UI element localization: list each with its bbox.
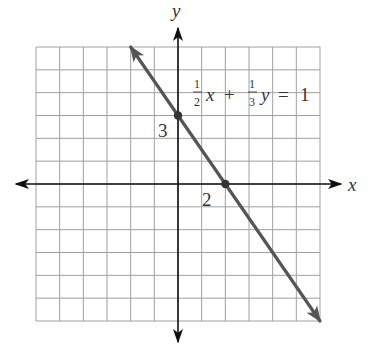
- y-intercept-point: [174, 111, 182, 119]
- eq-rhs: 1: [300, 84, 310, 105]
- x-axis-label: x: [347, 174, 357, 195]
- eq-frac1-denominator: 2: [194, 95, 200, 109]
- y-axis-label: y: [170, 0, 181, 21]
- eq-equals: =: [278, 84, 289, 105]
- x-intercept-label: 2: [202, 189, 212, 210]
- eq-frac1-numerator: 1: [194, 77, 200, 91]
- eq-y: y: [259, 84, 270, 105]
- eq-plus: +: [224, 84, 235, 105]
- eq-frac2-numerator: 1: [249, 77, 255, 91]
- coordinate-plane: x y 3 2 1 2 x + 1 3 y = 1: [0, 0, 373, 345]
- y-intercept-label: 3: [158, 120, 168, 141]
- x-intercept-point: [221, 180, 229, 188]
- eq-frac2-denominator: 3: [249, 95, 255, 109]
- eq-x: x: [205, 84, 215, 105]
